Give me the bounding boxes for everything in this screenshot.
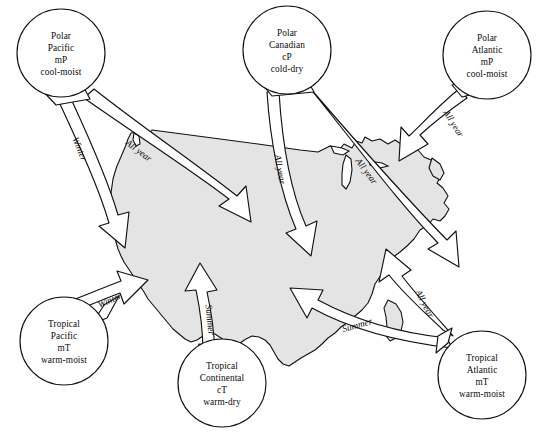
label-polar-pacific-character: cool-moist	[41, 67, 82, 77]
airmass-diagram-canvas: Polar Pacific mP cool-moist Polar Canadi…	[0, 0, 538, 438]
label-tropical-pacific-code: mT	[57, 343, 70, 353]
bubble-tropical-pacific[interactable]: Tropical Pacific mT warm-moist	[20, 296, 119, 385]
label-polar-atlantic-line2: Atlantic	[472, 45, 503, 55]
label-tropical-pacific-line2: Pacific	[51, 331, 78, 341]
label-tropical-pacific-line1: Tropical	[48, 319, 80, 329]
label-polar-pacific-code: mP	[55, 55, 68, 65]
label-polar-canadian-line1: Polar	[277, 28, 298, 38]
bubble-circle-polar-atlantic[interactable]	[443, 11, 531, 99]
bubble-circle-tropical-atlantic[interactable]	[438, 331, 526, 419]
arrow-label-polar-atlantic-allyear: All year	[441, 107, 466, 139]
bubble-polar-atlantic[interactable]: Polar Atlantic mP cool-moist	[443, 11, 531, 99]
label-tropical-atlantic-line1: Tropical	[466, 353, 498, 363]
bubble-circle-tropical-continental[interactable]	[178, 339, 266, 427]
label-polar-canadian-line2: Canadian	[269, 40, 305, 50]
label-tropical-continental-line1: Tropical	[206, 361, 238, 371]
label-tropical-atlantic-character: warm-moist	[459, 389, 505, 399]
label-tropical-atlantic-line2: Atlantic	[467, 365, 498, 375]
label-polar-pacific-line1: Polar	[51, 31, 72, 41]
bubble-circle-polar-canadian[interactable]	[243, 6, 331, 94]
bubble-circle-tropical-pacific[interactable]	[20, 297, 108, 385]
bubble-polar-canadian[interactable]: Polar Canadian cP cold-dry	[243, 6, 331, 96]
label-polar-pacific-line2: Pacific	[48, 43, 75, 53]
label-polar-canadian-code: cP	[282, 52, 292, 62]
airmass-diagram: Polar Pacific mP cool-moist Polar Canadi…	[0, 0, 538, 438]
figure-caption	[0, 424, 538, 438]
label-tropical-continental-line2: Continental	[200, 373, 245, 383]
bubble-circle-polar-pacific[interactable]	[17, 9, 105, 97]
label-tropical-pacific-character: warm-moist	[41, 355, 87, 365]
bubble-tropical-atlantic[interactable]: Tropical Atlantic mT warm-moist	[436, 328, 526, 419]
label-polar-atlantic-line1: Polar	[477, 33, 498, 43]
label-polar-atlantic-code: mP	[481, 57, 494, 67]
bubble-tropical-continental[interactable]: Tropical Continental cT warm-dry	[178, 339, 266, 427]
label-polar-atlantic-character: cool-moist	[467, 69, 508, 79]
label-tropical-continental-character: warm-dry	[203, 397, 241, 407]
label-tropical-atlantic-code: mT	[475, 377, 488, 387]
label-polar-canadian-character: cold-dry	[271, 64, 304, 74]
label-tropical-continental-code: cT	[217, 385, 227, 395]
